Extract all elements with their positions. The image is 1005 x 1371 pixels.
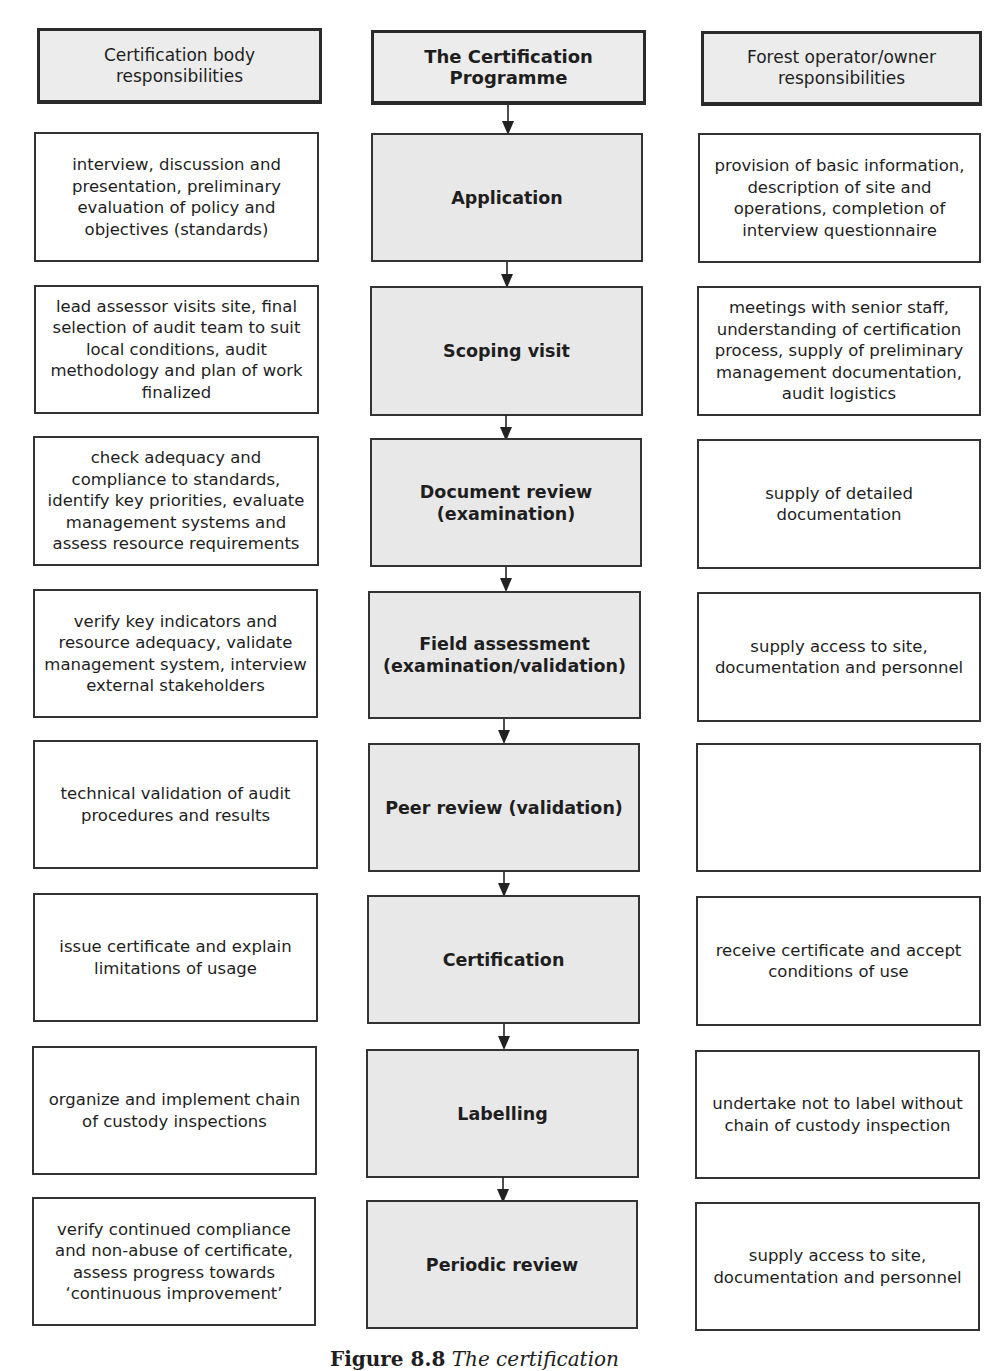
header-certification-programme: The Certification Programme [371, 30, 646, 105]
operator-box-peer-review [696, 743, 981, 872]
cert-body-text: verify continued compliance and non-abus… [40, 1219, 308, 1305]
operator-box-periodic-review: supply access to site, documentation and… [695, 1202, 980, 1331]
step-label: Field assessment (examination/validation… [376, 633, 633, 677]
cert-body-box-document-review: check adequacy and compliance to standar… [33, 436, 319, 566]
arrow-down-icon [500, 262, 514, 288]
step-label: Periodic review [426, 1254, 578, 1276]
header-center-label: The Certification Programme [380, 46, 637, 88]
operator-box-document-review: supply of detailed documentation [697, 439, 981, 569]
header-forest-operator: Forest operator/owner responsibilities [701, 31, 982, 106]
step-peer-review: Peer review (validation) [368, 743, 640, 872]
arrow-down-icon [499, 567, 513, 592]
operator-text: meetings with senior staff, understandin… [705, 297, 973, 405]
arrow-down-icon [497, 1024, 511, 1050]
operator-box-certification: receive certificate and accept condition… [696, 896, 981, 1026]
operator-box-labelling: undertake not to label without chain of … [695, 1050, 980, 1179]
cert-body-box-application: interview, discussion and presentation, … [34, 132, 319, 262]
step-label: Peer review (validation) [385, 797, 623, 819]
step-label: Scoping visit [443, 340, 570, 362]
cert-body-box-labelling: organize and implement chain of custody … [32, 1046, 317, 1175]
cert-body-box-field-assessment: verify key indicators and resource adequ… [33, 589, 318, 718]
step-field-assessment: Field assessment (examination/validation… [368, 591, 641, 719]
cert-body-text: interview, discussion and presentation, … [42, 154, 311, 240]
step-label: Certification [443, 949, 565, 971]
header-right-label: Forest operator/owner responsibilities [710, 47, 973, 89]
operator-text: supply access to site, documentation and… [705, 636, 973, 679]
cert-body-box-scoping-visit: lead assessor visits site, final selecti… [34, 285, 319, 414]
caption-text: The certification [452, 1347, 619, 1371]
cert-body-text: verify key indicators and resource adequ… [41, 611, 310, 697]
arrow-down-icon [501, 105, 515, 135]
step-label: Labelling [457, 1103, 547, 1125]
step-application: Application [371, 133, 643, 262]
step-certification: Certification [367, 895, 640, 1024]
cert-body-text: organize and implement chain of custody … [40, 1089, 309, 1132]
step-labelling: Labelling [366, 1049, 639, 1178]
arrow-down-icon [497, 719, 511, 744]
header-certification-body: Certification body responsibilities [37, 28, 322, 104]
cert-body-box-periodic-review: verify continued compliance and non-abus… [32, 1197, 316, 1326]
step-label: Document review (examination) [378, 481, 634, 525]
operator-box-field-assessment: supply access to site, documentation and… [697, 592, 981, 722]
figure-caption: Figure 8.8 The certification [330, 1347, 730, 1371]
operator-text: receive certificate and accept condition… [704, 940, 973, 983]
cert-body-text: check adequacy and compliance to standar… [41, 447, 311, 555]
cert-body-box-peer-review: technical validation of audit procedures… [33, 740, 318, 869]
arrow-down-icon [497, 872, 511, 897]
operator-box-scoping-visit: meetings with senior staff, understandin… [697, 286, 981, 416]
cert-body-text: lead assessor visits site, final selecti… [42, 296, 311, 404]
operator-text: undertake not to label without chain of … [703, 1093, 972, 1136]
step-label: Application [451, 187, 563, 209]
step-scoping-visit: Scoping visit [370, 286, 643, 416]
caption-label: Figure 8.8 [330, 1347, 445, 1371]
operator-text: provision of basic information, descript… [706, 155, 973, 241]
header-left-label: Certification body responsibilities [46, 45, 313, 87]
step-document-review: Document review (examination) [370, 438, 642, 567]
operator-box-application: provision of basic information, descript… [698, 133, 981, 263]
operator-text: supply of detailed documentation [705, 483, 973, 526]
step-periodic-review: Periodic review [366, 1200, 638, 1329]
cert-body-text: issue certificate and explain limitation… [41, 936, 310, 979]
cert-body-text: technical validation of audit procedures… [41, 783, 310, 826]
cert-body-box-certification: issue certificate and explain limitation… [33, 893, 318, 1022]
operator-text: supply access to site, documentation and… [703, 1245, 972, 1288]
